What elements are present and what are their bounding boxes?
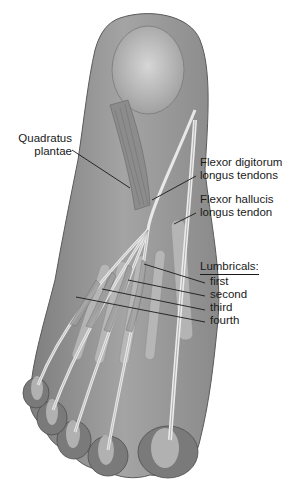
label-fdl-line2: longus tendons <box>200 169 282 182</box>
label-quadratus-line2: plantae <box>4 145 72 158</box>
label-lumbrical-third: third <box>200 301 259 314</box>
label-lumbricals-heading: Lumbricals: <box>200 260 259 275</box>
label-flexor-digitorum-longus: Flexor digitorum longus tendons <box>200 156 282 182</box>
label-fhl-line2: longus tendon <box>200 206 274 219</box>
label-fhl-line1: Flexor hallucis <box>200 193 274 206</box>
label-quadratus-line1: Quadratus <box>4 132 72 145</box>
foot-illustration <box>0 0 289 491</box>
label-fdl-line1: Flexor digitorum <box>200 156 282 169</box>
label-lumbricals: Lumbricals: first second third fourth <box>200 260 259 327</box>
label-lumbrical-first: first <box>200 275 259 288</box>
label-lumbrical-second: second <box>200 288 259 301</box>
label-lumbrical-fourth: fourth <box>200 314 259 327</box>
label-flexor-hallucis-longus: Flexor hallucis longus tendon <box>200 193 274 219</box>
calcaneus <box>112 26 184 114</box>
label-quadratus-plantae: Quadratus plantae <box>4 132 72 158</box>
